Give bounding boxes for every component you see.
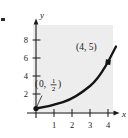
intercept-fraction-numerator: 1 [52, 77, 55, 84]
y-tick-label-6: 6 [24, 53, 28, 63]
y-axis-arrowhead [34, 19, 39, 25]
y-tick-label-4: 4 [24, 71, 29, 81]
point-annotation-label: (4, 5) [76, 42, 97, 53]
y-intercept-point-marker [33, 106, 38, 111]
y-axis-label: y [39, 10, 44, 20]
curve-point-marker [105, 59, 111, 65]
intercept-fraction-denominator: 2 [52, 85, 55, 92]
plot-area-background [33, 25, 113, 114]
x-axis-arrowhead [114, 111, 120, 116]
x-axis-label: x [121, 109, 126, 119]
x-tick-label-2: 2 [70, 120, 74, 130]
intercept-close-paren: ) [58, 79, 61, 90]
graph-canvas: 8 6 4 2 1 2 3 4 y x (4, 5) ( 0, 1 2 ) [0, 0, 128, 138]
page-artifact-mark [1, 18, 5, 21]
y-tick-label-2: 2 [24, 89, 28, 99]
x-tick-label-3: 3 [88, 120, 92, 130]
intercept-zero-text: 0, [39, 79, 46, 89]
x-tick-label-4: 4 [106, 120, 111, 130]
figure-container: 8 6 4 2 1 2 3 4 y x (4, 5) ( 0, 1 2 ) [0, 0, 128, 138]
y-tick-label-8: 8 [24, 35, 28, 45]
x-tick-label-1: 1 [52, 120, 56, 130]
intercept-open-paren: ( [35, 79, 38, 90]
